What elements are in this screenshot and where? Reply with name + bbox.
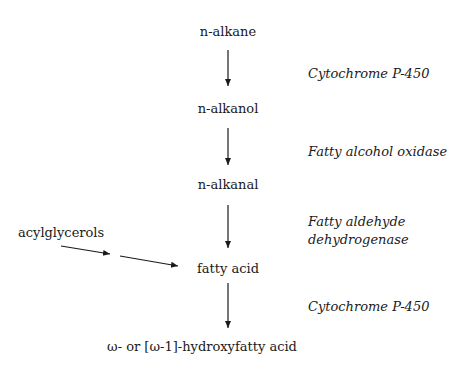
arrow-acylglycerols-seg2: [120, 256, 178, 266]
arrow-acylglycerols-seg1: [61, 246, 110, 254]
arrows-layer: [0, 0, 469, 370]
